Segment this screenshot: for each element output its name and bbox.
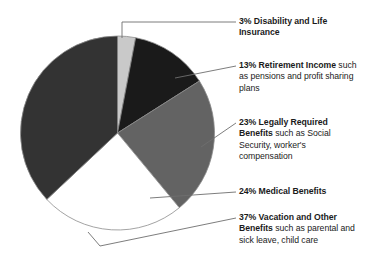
callout-disability: 3% Disability and Life Insurance [239,16,367,39]
pie-chart-graphic [12,22,224,246]
callout-vacation: 37% Vacation and Other Benefits such as … [239,212,365,246]
pie-svg [12,22,224,246]
callout-medical-bold: 24% Medical Benefits [239,186,326,196]
callout-retirement: 13% Retirement Income such as pensions a… [239,60,361,94]
callout-retirement-bold: 13% Retirement Income [239,60,336,70]
pie-chart-figure: WHERE THE BENEFITS DOLLAR WENT IN 2002 3… [0,0,370,277]
callout-legally: 23% Legally Required Benefits such as So… [239,117,361,162]
chart-title: WHERE THE BENEFITS DOLLAR WENT IN 2002 [22,0,322,1]
callout-medical: 24% Medical Benefits [239,186,367,197]
callout-disability-bold: 3% Disability and Life Insurance [239,16,327,37]
